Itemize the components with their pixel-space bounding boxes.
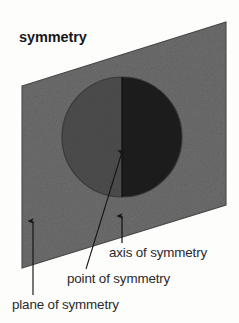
callout-label-plane-of-symmetry: plane of symmetry xyxy=(12,297,119,312)
symmetry-figure: symmetry axis of symmetry point of symme… xyxy=(0,0,239,323)
figure-title: symmetry xyxy=(19,29,87,45)
callout-label-point-of-symmetry: point of symmetry xyxy=(67,271,170,286)
callout-label-axis-of-symmetry: axis of symmetry xyxy=(109,245,207,260)
